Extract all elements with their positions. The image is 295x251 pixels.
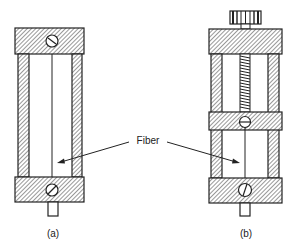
caption-a: (a) xyxy=(47,228,59,239)
figure-a: (a) xyxy=(15,28,84,239)
screw-bottom-b-icon xyxy=(239,184,252,197)
fiber-holder-diagram: (a) (b xyxy=(0,0,295,251)
fiber-label: Fiber xyxy=(137,135,160,146)
caption-b: (b) xyxy=(240,228,252,239)
stub-b xyxy=(240,203,250,216)
knurled-knob-icon xyxy=(230,11,261,29)
threaded-rod-icon xyxy=(240,54,250,112)
screw-top-a-icon xyxy=(46,35,58,47)
arrowhead-b-icon xyxy=(232,159,240,164)
top-block-b xyxy=(209,29,282,54)
leader-line-b xyxy=(167,142,236,162)
leader-line-a xyxy=(61,142,129,162)
arrowhead-a-icon xyxy=(57,159,65,164)
left-pillar-a xyxy=(18,54,29,177)
screw-middle-b-icon xyxy=(240,117,251,128)
figure-b: (b) xyxy=(209,11,282,239)
stub-a xyxy=(48,202,58,216)
screw-bottom-a-icon xyxy=(46,184,58,196)
